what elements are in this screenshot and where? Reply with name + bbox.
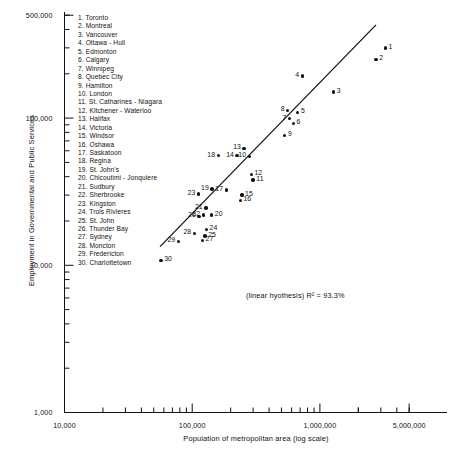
legend-item-7: 7. Winnipeg <box>78 65 162 73</box>
legend-item-12: 12. Kitchener - Waterloo <box>78 107 162 115</box>
data-point-20 <box>210 213 213 216</box>
y-tick-label-1000: 1,000 <box>0 408 53 417</box>
legend-item-21: 21. Sudbury <box>78 183 162 191</box>
x-tick-label-100000: 100,000 <box>152 421 232 430</box>
legend-item-24: 24. Trois Rivieres <box>78 208 162 216</box>
legend-item-2: 2. Montreal <box>78 22 162 30</box>
legend-item-4: 4. Ottawa - Hull <box>78 39 162 47</box>
data-point-label-28: 28 <box>183 228 191 235</box>
y-tick-label-100000: 100,000 <box>0 114 53 123</box>
legend-item-6: 6. Calgary <box>78 56 162 64</box>
legend-item-23: 23. Kingston <box>78 200 162 208</box>
data-point-label-30: 30 <box>164 255 172 262</box>
y-tick-label-500000: 500,000 <box>0 11 53 20</box>
legend-item-20: 20. Chicoutimi - Jonquiere <box>78 174 162 182</box>
data-point-label-8: 8 <box>281 105 285 112</box>
y-axis-ticks <box>65 15 74 412</box>
data-point-label-1: 1 <box>388 43 392 50</box>
legend-item-27: 27. Sydney <box>78 233 162 241</box>
legend-item-16: 16. Oshawa <box>78 141 162 149</box>
r-squared-annotation: (linear hyothesis) R² = 93.3% <box>246 291 345 300</box>
data-point-label-2: 2 <box>379 54 383 61</box>
y-tick-label-10000: 10,000 <box>0 261 53 270</box>
legend-item-26: 26. Thunder Bay <box>78 225 162 233</box>
data-point-1 <box>384 46 387 49</box>
data-point-label-7: 7 <box>283 114 287 121</box>
x-axis-title-text: Population of metropolitan area (log sca… <box>143 434 328 443</box>
legend-item-10: 10. London <box>78 90 162 98</box>
legend-item-9: 9. Hamilton <box>78 82 162 90</box>
data-point-label-6: 6 <box>297 118 301 125</box>
data-point-label-19: 19 <box>201 184 209 191</box>
data-point-label-20: 20 <box>215 210 223 217</box>
data-point-4 <box>301 74 304 77</box>
data-point-10 <box>248 155 251 158</box>
x-tick-label-10000: 10,000 <box>25 421 105 430</box>
x-axis-ticks <box>65 404 410 413</box>
legend-item-25: 25. St. John <box>78 217 162 225</box>
data-point-2 <box>374 58 377 61</box>
legend-item-28: 28. Moncton <box>78 242 162 250</box>
legend-item-19: 19. St. John's <box>78 166 162 174</box>
x-axis-title: Population of metropolitan area (log sca… <box>0 434 472 443</box>
data-point-label-9: 9 <box>288 130 292 137</box>
data-point-11 <box>251 178 254 181</box>
data-point-30 <box>159 259 162 262</box>
x-tick-label-1000000: 1,000,000 <box>280 421 360 430</box>
legend-item-22: 22. Sherbrooke <box>78 191 162 199</box>
data-point-17 <box>225 188 228 191</box>
legend-item-11: 11. St. Catharines - Niagara <box>78 98 162 106</box>
data-point-26 <box>197 215 200 218</box>
legend-item-29: 29. Fredericton <box>78 250 162 258</box>
data-point-label-4: 4 <box>295 71 299 78</box>
city-legend-list: 1. Toronto2. Montreal3. Vancouver4. Otta… <box>78 14 162 267</box>
data-point-label-12: 12 <box>254 169 262 176</box>
data-point-label-23: 23 <box>188 189 196 196</box>
data-point-label-26: 26 <box>188 211 196 218</box>
data-point-label-17: 17 <box>215 185 223 192</box>
legend-item-14: 14. Victoria <box>78 124 162 132</box>
legend-item-1: 1. Toronto <box>78 14 162 22</box>
legend-item-3: 3. Vancouver <box>78 31 162 39</box>
legend-item-18: 18. Regina <box>78 157 162 165</box>
legend-item-30: 30. Charlottetown <box>78 259 162 267</box>
y-axis-title: Employment in Governmental and Public Se… <box>27 66 36 336</box>
legend-item-13: 13. Halifax <box>78 115 162 123</box>
data-point-label-10: 10 <box>238 151 246 158</box>
data-point-label-27: 27 <box>206 235 214 242</box>
data-point-23 <box>197 192 200 195</box>
data-point-label-13: 13 <box>233 143 241 150</box>
data-point-label-18: 18 <box>207 151 215 158</box>
data-point-label-5: 5 <box>301 107 305 114</box>
legend-item-8: 8. Quebec City <box>78 73 162 81</box>
data-point-21 <box>204 206 207 209</box>
data-point-19 <box>210 187 213 190</box>
legend-item-17: 17. Saskatoon <box>78 149 162 157</box>
scatter-plot-canvas <box>0 0 472 455</box>
legend-item-5: 5. Edmonton <box>78 48 162 56</box>
data-point-label-16: 16 <box>243 195 251 202</box>
legend-item-15: 15. Windsor <box>78 132 162 140</box>
data-point-22 <box>202 213 205 216</box>
x-tick-label-5000000: 5,000,000 <box>369 421 449 430</box>
data-point-label-14: 14 <box>226 151 234 158</box>
data-point-12 <box>250 173 253 176</box>
data-point-label-29: 29 <box>167 236 175 243</box>
data-point-label-3: 3 <box>337 87 341 94</box>
